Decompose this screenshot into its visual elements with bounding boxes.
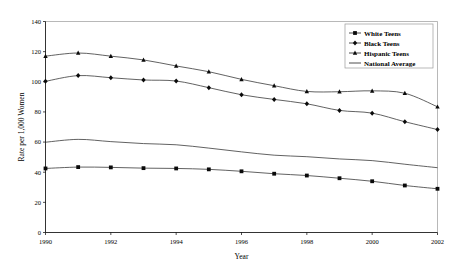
data-point-marker [142,166,146,170]
y-tick-label: 100 [31,78,41,85]
x-tick-label: 1992 [104,238,117,245]
x-tick-label: 1996 [235,238,249,245]
y-tick-label: 120 [31,48,41,55]
data-point-marker [44,167,48,171]
y-tick-label: 140 [31,18,41,25]
legend-label: White Teens [364,30,401,38]
data-point-marker [109,165,113,169]
x-axis-title: Year [235,252,249,261]
legend-marker-icon [353,31,357,35]
data-point-marker [403,184,407,188]
data-series-national-average [46,139,438,167]
x-tick-label: 1998 [300,238,313,245]
legend-label: Black Teens [364,40,400,48]
y-tick-label: 40 [35,169,42,176]
data-point-marker [272,97,276,102]
y-tick-label: 20 [35,199,42,206]
data-point-marker [239,92,243,97]
y-axis-ticks: 020406080100120140 [31,18,45,236]
x-tick-label: 2000 [366,238,379,245]
chart-legend: White TeensBlack TeensHispanic TeensNati… [345,24,433,68]
data-series-black-teens [43,73,439,132]
data-point-marker [338,176,342,180]
data-point-marker [109,75,113,80]
chart-container: 0204060801001201401990199219941996199820… [0,0,458,275]
data-point-marker [207,85,211,90]
data-point-marker [337,108,341,113]
series-line [46,139,438,167]
series-line [46,75,438,129]
data-point-marker [174,167,178,171]
y-tick-label: 0 [38,229,41,236]
data-series-white-teens [44,165,440,191]
y-axis-title: Rate per 1,000 Women [17,92,26,161]
data-point-marker [305,101,309,106]
data-point-marker [403,119,407,124]
teen-birth-rate-line-chart: 0204060801001201401990199219941996199820… [0,0,458,275]
x-tick-label: 1990 [39,238,52,245]
data-point-marker [240,169,244,173]
data-point-marker [436,187,440,191]
data-point-marker [272,172,276,176]
data-point-marker [141,77,145,82]
data-point-marker [174,79,178,84]
data-point-marker [76,73,80,78]
data-point-marker [435,127,439,132]
data-point-marker [207,167,211,171]
legend-label: National Average [364,60,415,68]
data-point-marker [76,165,80,169]
x-axis-ticks: 1990199219941996199820002002 [39,233,444,246]
data-point-marker [370,179,374,183]
data-point-marker [305,174,309,178]
data-point-marker [370,111,374,116]
y-tick-label: 80 [35,108,42,115]
x-tick-label: 1994 [170,238,184,245]
data-point-marker [43,79,47,84]
y-tick-label: 60 [35,138,42,145]
x-tick-label: 2002 [431,238,444,245]
legend-label: Hispanic Teens [364,50,409,58]
